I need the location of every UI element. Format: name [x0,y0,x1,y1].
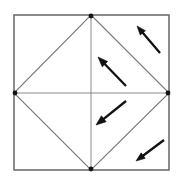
top-midpoint-vertex [89,14,94,19]
figure-canvas [0,0,182,181]
figure-svg [0,0,182,181]
right-midpoint-vertex [166,91,171,96]
bottom-midpoint-vertex [89,167,94,172]
left-midpoint-vertex [13,91,18,96]
